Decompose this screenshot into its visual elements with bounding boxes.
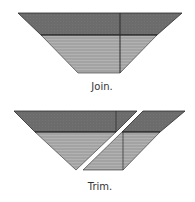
trim-caption: Trim. — [60, 181, 140, 192]
join-top-band — [18, 13, 182, 35]
diagram-canvas — [0, 0, 195, 202]
trim-left-top-band — [14, 111, 137, 132]
join-caption: Join. — [62, 81, 142, 92]
join-figure — [18, 13, 182, 73]
join-bottom-band — [41, 35, 157, 73]
